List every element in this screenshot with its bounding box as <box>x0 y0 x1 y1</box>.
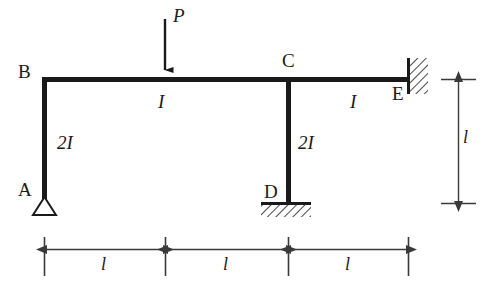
load-label-p: P <box>173 6 185 25</box>
dimension-vertical <box>441 80 476 204</box>
dim-label-span-3: l <box>345 255 350 273</box>
joint-label-e: E <box>392 84 404 103</box>
support-fixed-d <box>261 204 311 218</box>
dim-label-span-2: l <box>223 255 228 273</box>
joint-label-a: A <box>18 180 32 199</box>
structural-frame-figure: B A C D E 2I I 2I I P l l l l <box>0 0 489 299</box>
fixed-wall-hatching-e <box>410 58 428 94</box>
joint-label-b: B <box>18 62 31 81</box>
member-label-ab: 2I <box>57 133 73 152</box>
member-label-cd: 2I <box>298 133 314 152</box>
member-label-bc: I <box>158 92 164 111</box>
joint-label-d: D <box>264 182 278 201</box>
support-fixed-e <box>409 58 429 94</box>
dim-label-height: l <box>463 128 468 146</box>
dim-label-span-1: l <box>101 255 106 273</box>
frame-drawing-canvas <box>0 0 489 299</box>
support-pin-a <box>33 197 56 215</box>
pin-triangle-icon <box>33 197 56 215</box>
joint-label-c: C <box>282 51 295 70</box>
fixed-base-hatching-d <box>261 205 311 217</box>
member-label-ce: I <box>350 92 356 111</box>
